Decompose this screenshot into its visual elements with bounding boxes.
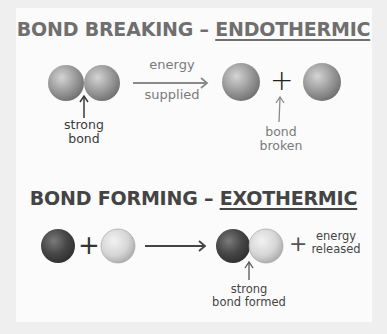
reaction-arrow: [145, 241, 205, 251]
atom-dark-bonded: [216, 229, 250, 263]
supplied-label: supplied: [137, 88, 207, 102]
diagram-art: [0, 0, 387, 334]
strong-bond-arrow: [80, 96, 88, 118]
strong-bond-label-line1: strong: [62, 118, 106, 132]
atom-light-free: [101, 229, 135, 263]
energy-released-line2: released: [310, 243, 362, 256]
strong-bond-label-line2: bond: [62, 132, 106, 146]
plus-sign-energy: +: [289, 232, 305, 256]
atom-right-bonded: [84, 65, 120, 101]
bond-broken-label-line1: bond: [256, 125, 306, 139]
bond-formed-label-line2: bond formed: [210, 296, 288, 309]
bond-broken-arrow: [276, 97, 284, 122]
plus-sign-reactants: +: [78, 231, 98, 259]
atom-left-bonded: [48, 65, 84, 101]
atom-separated-right: [303, 63, 341, 101]
energy-label: energy: [142, 58, 202, 72]
atom-dark-free: [41, 229, 75, 263]
bond-broken-label-line2: broken: [256, 139, 306, 153]
plus-sign: +: [270, 66, 290, 96]
atom-light-bonded: [249, 229, 283, 263]
bond-formed-arrow: [245, 262, 253, 280]
atom-separated-left: [222, 63, 260, 101]
